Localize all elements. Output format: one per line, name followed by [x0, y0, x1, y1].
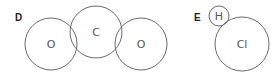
atom-label-c: C — [92, 26, 100, 39]
diagram-label-d: D — [15, 12, 22, 23]
molecule-diagrams: D O C O E H Cl — [0, 0, 277, 75]
atom-label-o-right: O — [137, 38, 146, 51]
atom-label-o-left: O — [47, 38, 56, 51]
atom-label-h: H — [215, 10, 223, 23]
atom-label-cl: Cl — [237, 38, 248, 51]
diagram-label-e: E — [194, 12, 201, 23]
diagram-e: E H Cl — [194, 6, 269, 71]
diagram-d: D O C O — [15, 6, 167, 70]
